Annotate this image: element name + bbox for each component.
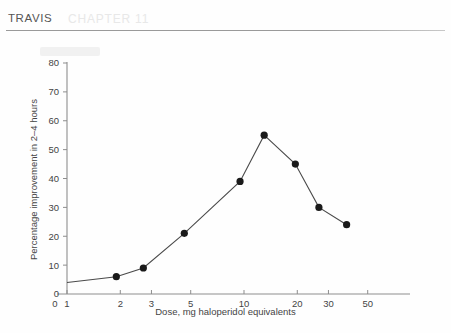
data-polyline — [67, 135, 347, 282]
data-point-marker — [181, 230, 188, 237]
y-tick-label: 40 — [48, 173, 59, 184]
y-tick-label: 10 — [48, 260, 59, 271]
ticks-group — [63, 63, 368, 294]
data-point-marker — [140, 264, 147, 271]
data-point-marker — [315, 204, 322, 211]
x-axis-title: Dose, mg haloperidol equivalents — [0, 306, 451, 317]
y-tick-label: 30 — [48, 202, 59, 213]
data-series-group — [67, 135, 347, 282]
ghost-watermark-text: CHAPTER 11 — [68, 12, 149, 26]
page-canvas: CHAPTER 11 TRAVIS 0102030405060708001235… — [0, 0, 451, 333]
y-tick-label: 80 — [48, 57, 59, 68]
figure-container: 010203040506070800123510203050 Dose, mg … — [0, 34, 451, 333]
y-tick-label: 50 — [48, 144, 59, 155]
y-tick-label: 70 — [48, 86, 59, 97]
axes-group — [57, 62, 410, 294]
data-markers-group — [113, 132, 350, 281]
data-point-marker — [113, 273, 120, 280]
data-point-marker — [343, 221, 350, 228]
y-tick-label: 60 — [48, 115, 59, 126]
y-tick-label: 20 — [48, 231, 59, 242]
running-head: TRAVIS — [8, 12, 52, 24]
y-axis-title: Percentage improvement in 2–4 hours — [28, 80, 39, 280]
data-point-marker — [261, 132, 268, 139]
line-chart-plot: 010203040506070800123510203050 — [0, 34, 451, 333]
header-rule-divider — [6, 30, 445, 31]
tick-labels-group: 010203040506070800123510203050 — [48, 57, 373, 309]
data-point-marker — [292, 160, 299, 167]
data-point-marker — [236, 178, 243, 185]
